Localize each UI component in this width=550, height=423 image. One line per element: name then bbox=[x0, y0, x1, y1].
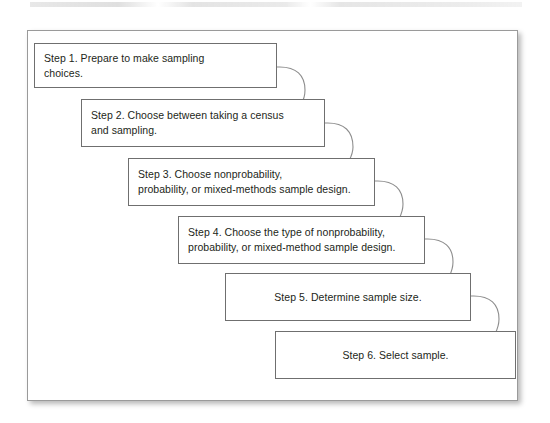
step-box-6[interactable]: Step 6. Select sample. bbox=[275, 331, 516, 379]
step-label-5: Step 5. Determine sample size. bbox=[226, 290, 470, 305]
step-box-1[interactable]: Step 1. Prepare to make sampling choices… bbox=[34, 43, 277, 88]
page-top-scan-artifact bbox=[30, 2, 522, 7]
step-box-2[interactable]: Step 2. Choose between taking a census a… bbox=[81, 99, 325, 147]
step-label-4: Step 4. Choose the type of nonprobabilit… bbox=[179, 225, 424, 255]
step-label-3: Step 3. Choose nonprobability, probabili… bbox=[129, 167, 374, 197]
step-box-5[interactable]: Step 5. Determine sample size. bbox=[225, 273, 471, 321]
step-box-4[interactable]: Step 4. Choose the type of nonprobabilit… bbox=[178, 216, 425, 264]
step-label-6: Step 6. Select sample. bbox=[276, 348, 515, 363]
step-label-2: Step 2. Choose between taking a census a… bbox=[82, 108, 324, 138]
step-label-1: Step 1. Prepare to make sampling choices… bbox=[35, 51, 276, 81]
step-box-3[interactable]: Step 3. Choose nonprobability, probabili… bbox=[128, 158, 375, 206]
